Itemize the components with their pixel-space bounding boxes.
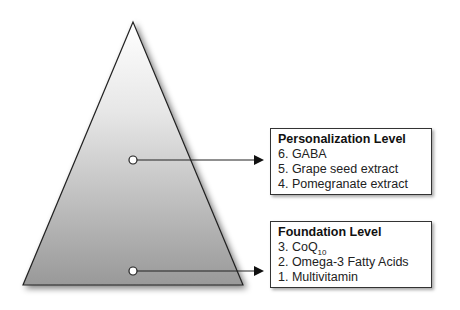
foundation-level-box: Foundation Level 3. CoQ10 2. Omega-3 Fat… xyxy=(270,221,432,288)
personalization-level-box: Personalization Level 6. GABA 5. Grape s… xyxy=(270,128,432,195)
level-item: 4. Pomegranate extract xyxy=(278,177,425,192)
pyramid-triangle xyxy=(23,22,243,285)
personalization-marker xyxy=(129,156,137,164)
level-item: 1. Multivitamin xyxy=(278,270,425,285)
level-item: 3. CoQ10 xyxy=(278,240,425,255)
arrowhead-icon xyxy=(254,266,264,276)
level-title: Personalization Level xyxy=(278,132,425,147)
level-item: 5. Grape seed extract xyxy=(278,162,425,177)
level-item: 2. Omega-3 Fatty Acids xyxy=(278,255,425,270)
arrowhead-icon xyxy=(254,155,264,165)
foundation-marker xyxy=(129,267,137,275)
level-item: 6. GABA xyxy=(278,147,425,162)
level-title: Foundation Level xyxy=(278,225,425,240)
